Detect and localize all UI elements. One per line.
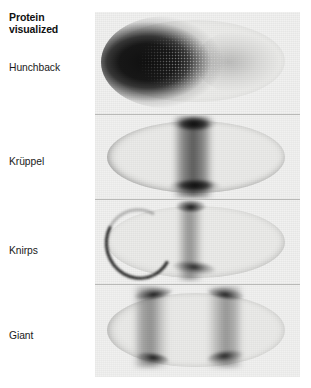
protein-expression-figure: Protein visualized Hunchback Krüppel Kni…	[0, 0, 311, 388]
row-label-hunchback: Hunchback	[9, 62, 95, 74]
row-label-giant: Giant	[9, 330, 95, 342]
figure-title: Protein visualized	[9, 11, 93, 36]
embryo-outline	[107, 121, 285, 193]
embryo-outline	[107, 293, 285, 367]
label-column: Protein visualized Hunchback Krüppel Kni…	[0, 0, 95, 388]
knirps-embryo-panel	[95, 200, 300, 284]
giant-embryo-panel	[95, 285, 300, 377]
embryo-outline	[107, 206, 285, 278]
hunchback-embryo-panel	[95, 12, 300, 114]
row-label-knirps: Knirps	[9, 245, 95, 257]
embryo-panel-strip	[95, 12, 300, 377]
kruppel-embryo-panel	[95, 115, 300, 199]
row-label-kruppel: Krüppel	[9, 156, 95, 168]
embryo-outline	[105, 20, 285, 102]
